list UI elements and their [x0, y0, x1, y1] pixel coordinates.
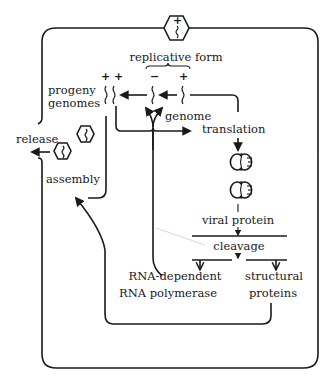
structural-label-line1: structural — [245, 269, 303, 283]
progeny-strand-signs: + + — [101, 70, 123, 83]
cell-membrane — [38, 28, 318, 368]
assembly-label: assembly — [46, 172, 100, 186]
translation-label: translation — [202, 122, 266, 136]
virion-plus-sign: + — [173, 14, 182, 27]
progeny-virion-icon — [54, 143, 71, 159]
rdrp-label-line1: RNA-dependent — [129, 269, 222, 283]
polymerase-supply-line — [153, 131, 162, 276]
entering-virion-icon: + — [164, 14, 189, 40]
ribosome-icon — [230, 153, 252, 171]
ribosome-icon — [230, 181, 252, 199]
plus-strand-sign: + — [179, 70, 188, 83]
replicative-form-label: replicative form — [129, 50, 222, 64]
genome-label: genome — [165, 109, 211, 123]
release-label: release — [16, 132, 59, 146]
structural-label-line2: proteins — [249, 286, 297, 300]
rdrp-label-line2: RNA polymerase — [119, 286, 217, 300]
viral-protein-label: viral protein — [201, 213, 275, 227]
genomes-label: genomes — [48, 96, 100, 110]
minus-strand-sign: − — [150, 70, 159, 83]
polymerase-branch-arrows — [146, 108, 162, 150]
cleavage-label: cleavage — [213, 239, 264, 253]
virus-replication-diagram: + replicative form + + − + progeny genom… — [0, 0, 332, 382]
progeny-virion-icon — [77, 126, 94, 142]
cleaved-products — [192, 260, 287, 269]
progeny-label: progeny — [48, 83, 96, 97]
